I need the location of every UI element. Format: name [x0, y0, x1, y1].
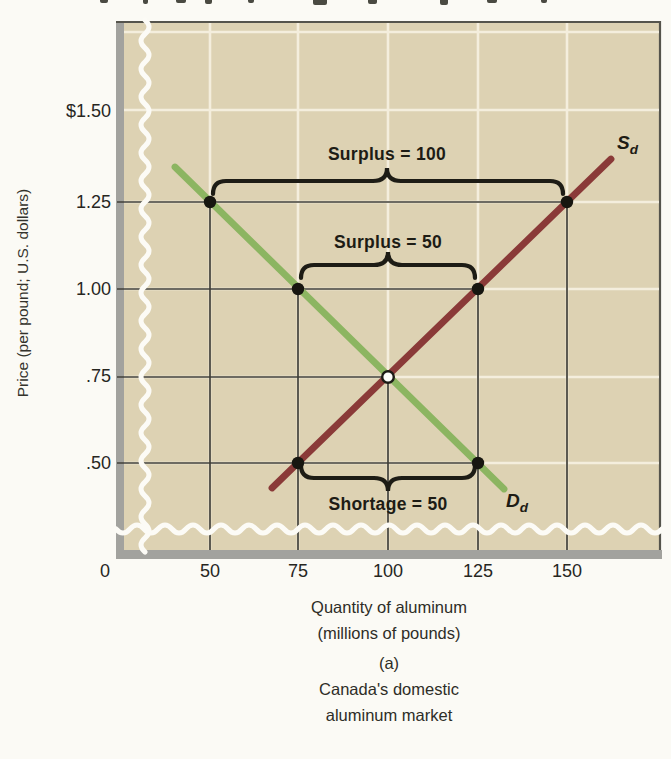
surplus-50-label: Surplus = 50 [334, 232, 442, 252]
point-125-050 [472, 457, 484, 469]
x-tick-0: 0 [100, 561, 110, 581]
x-tick-125: 125 [463, 561, 493, 581]
y-tick-150: $1.50 [66, 101, 111, 121]
panel-label: (a) [189, 650, 589, 676]
y-tick-050: .50 [86, 453, 111, 473]
x-axis-title-line2: (millions of pounds) [189, 620, 589, 646]
shortage-50-label: Shortage = 50 [328, 494, 447, 514]
textbook-figure-page: { "axes": { "y_title": "Price (per pound… [0, 0, 671, 759]
surplus-100-label: Surplus = 100 [328, 144, 446, 164]
equilibrium-point [382, 371, 394, 383]
point-150-125 [561, 196, 573, 208]
caption-block: Quantity of aluminum (millions of pounds… [189, 594, 589, 728]
y-tick-125: 1.25 [76, 192, 111, 212]
plot-area [124, 22, 660, 550]
supply-demand-chart: Surplus = 100 Surplus = 50 Shortage = 50… [0, 0, 671, 592]
point-75-050 [292, 457, 304, 469]
x-tick-100: 100 [373, 561, 403, 581]
y-tick-100: 1.00 [76, 279, 111, 299]
x-tick-50: 50 [200, 561, 220, 581]
y-tick-labels: $1.50 1.25 1.00 .75 .50 [66, 101, 111, 473]
y-tick-075: .75 [86, 366, 111, 386]
y-axis-title: Price (per pound; U.S. dollars) [14, 189, 31, 397]
x-axis-bar [116, 550, 662, 559]
point-75-100 [292, 283, 304, 295]
y-axis-bar [116, 21, 124, 559]
x-tick-150: 150 [552, 561, 582, 581]
point-125-100 [472, 283, 484, 295]
figure-caption-line2: aluminum market [189, 702, 589, 728]
x-tick-75: 75 [288, 561, 308, 581]
x-tick-labels: 0 50 75 100 125 150 [100, 561, 582, 581]
point-50-125 [204, 196, 216, 208]
figure-caption-line1: Canada's domestic [189, 676, 589, 702]
x-axis-title-line1: Quantity of aluminum [189, 594, 589, 620]
